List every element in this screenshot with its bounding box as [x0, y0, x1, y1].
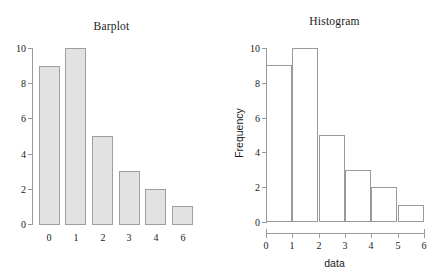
barplot-x-tick-label: 3	[114, 232, 144, 243]
histogram-y-tick-label: 0	[238, 217, 260, 228]
histogram-y-axis-label: Frequency	[233, 93, 245, 173]
histogram-y-tick-label: 10	[238, 43, 260, 54]
histogram-bar	[292, 48, 318, 222]
histogram-x-tick-label: 6	[409, 240, 439, 251]
barplot-x-tick-label: 0	[34, 232, 64, 243]
barplot-bar	[65, 48, 86, 225]
barplot-bar	[39, 66, 60, 225]
histogram-bar	[319, 135, 345, 222]
barplot-x-tick-label: 1	[61, 232, 91, 243]
histogram-y-tick	[262, 222, 266, 223]
histogram-x-tick	[345, 234, 346, 238]
histogram-bar	[371, 187, 397, 222]
barplot-y-tick	[28, 118, 32, 119]
barplot-bar	[92, 136, 113, 225]
histogram-x-tick-label: 1	[277, 240, 307, 251]
barplot-y-tick	[28, 154, 32, 155]
histogram-x-tick	[319, 234, 320, 238]
barplot-y-tick	[28, 48, 32, 49]
barplot-y-tick-label: 2	[4, 184, 26, 195]
barplot-y-tick-label: 8	[4, 78, 26, 89]
barplot-plot-area: 0246810012346	[0, 0, 223, 274]
histogram-x-tick	[398, 234, 399, 238]
histogram-bar	[345, 170, 371, 222]
two-panel-figure: Barplot 0246810012346 Histogram 02468100…	[0, 0, 446, 274]
barplot-y-axis-line	[32, 48, 33, 225]
histogram-y-tick-label: 8	[238, 78, 260, 89]
barplot-bar	[145, 189, 166, 225]
histogram-bar	[398, 205, 424, 222]
histogram-x-tick	[424, 234, 425, 238]
histogram-y-tick-label: 2	[238, 182, 260, 193]
barplot-y-tick	[28, 189, 32, 190]
histogram-x-axis-label: data	[223, 257, 446, 269]
barplot-y-tick-label: 4	[4, 149, 26, 160]
barplot-x-tick-label: 6	[168, 232, 198, 243]
barplot-y-tick	[28, 83, 32, 84]
barplot-y-tick-label: 0	[4, 219, 26, 230]
histogram-plot-area: 02468100123456dataFrequency	[223, 0, 446, 274]
histogram-x-tick-label: 4	[356, 240, 386, 251]
histogram-y-tick	[262, 48, 266, 49]
barplot-y-tick-label: 6	[4, 113, 26, 124]
barplot-y-tick-label: 10	[4, 43, 26, 54]
barplot-y-tick	[28, 224, 32, 225]
histogram-bar	[266, 65, 292, 222]
histogram-panel: Histogram 02468100123456dataFrequency	[223, 0, 446, 274]
barplot-panel: Barplot 0246810012346	[0, 0, 223, 274]
barplot-x-tick-label: 4	[141, 232, 171, 243]
histogram-x-tick	[371, 234, 372, 238]
barplot-bar	[119, 171, 140, 225]
histogram-x-tick	[292, 234, 293, 238]
barplot-bar	[172, 206, 193, 225]
histogram-x-tick	[266, 234, 267, 238]
